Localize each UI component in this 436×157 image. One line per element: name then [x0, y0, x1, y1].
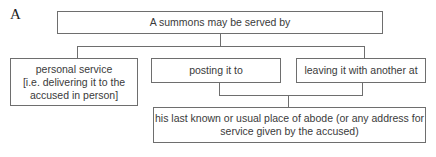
destination-line1: his last known or usual place of abode (… [155, 112, 424, 125]
method-personal-line3: accused in person] [30, 89, 118, 102]
method-leaving-text: leaving it with another at [304, 64, 417, 77]
method-posting: posting it to [151, 58, 281, 83]
method-personal-line2: [i.e. delivering it to the [23, 76, 125, 89]
connector-to-leaving [364, 46, 365, 58]
connector-leaving-down [362, 82, 363, 95]
connector-posting-down [219, 82, 220, 95]
root-node-text: A summons may be served by [150, 16, 291, 29]
connector-to-destination [288, 95, 289, 107]
method-posting-text: posting it to [189, 64, 243, 77]
root-node-summons: A summons may be served by [57, 11, 383, 34]
method-personal-service: personal service [i.e. delivering it to … [10, 58, 138, 106]
method-leaving: leaving it with another at [296, 58, 426, 83]
connector-root-branch [77, 46, 365, 47]
method-personal-line1: personal service [36, 63, 112, 76]
connector-merge [219, 95, 363, 96]
connector-to-personal [77, 46, 78, 58]
destination-line2: service given by the accused) [220, 125, 358, 138]
connector-root-down [220, 33, 221, 46]
destination-node: his last known or usual place of abode (… [153, 107, 426, 143]
figure-label: A [10, 6, 21, 23]
